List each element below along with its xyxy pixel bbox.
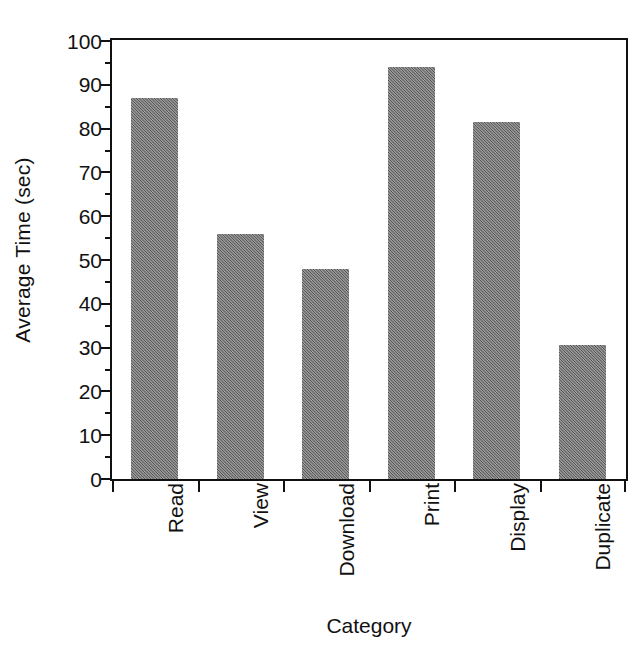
y-axis-major-tick: [101, 303, 112, 305]
y-axis-major-tick: [101, 84, 112, 86]
y-axis-tick-label: 20: [48, 380, 102, 401]
y-axis-major-tick: [101, 347, 112, 349]
x-axis-category-label: Print: [420, 483, 444, 613]
y-axis-tick-label: 40: [48, 293, 102, 314]
bar: [131, 98, 178, 479]
y-axis-minor-tick: [105, 281, 112, 283]
y-axis-minor-tick: [105, 456, 112, 458]
y-axis-tick-label: 80: [48, 118, 102, 139]
x-axis-category-label: Download: [335, 483, 359, 613]
x-axis-category-label: View: [249, 483, 273, 613]
y-axis-tick-label: 90: [48, 74, 102, 95]
y-axis-major-tick: [101, 434, 112, 436]
x-axis-category-label: Display: [506, 483, 530, 613]
y-axis-tick-label: 0: [48, 468, 102, 489]
y-axis-minor-tick: [105, 193, 112, 195]
y-axis-minor-tick: [105, 150, 112, 152]
y-axis-minor-tick: [105, 369, 112, 371]
x-axis-title: Category: [110, 614, 628, 638]
y-axis-tick-label: 60: [48, 205, 102, 226]
bar: [559, 345, 606, 479]
y-axis-major-tick: [101, 40, 112, 42]
x-axis-category-label: Duplicate: [591, 483, 615, 613]
bar: [473, 122, 520, 479]
y-axis-minor-tick: [105, 412, 112, 414]
y-axis-minor-tick: [105, 106, 112, 108]
bar-chart-figure: Average Time (sec) 010203040506070809010…: [0, 0, 643, 664]
y-axis-major-tick: [101, 390, 112, 392]
y-axis-minor-tick: [105, 325, 112, 327]
y-axis-tick-label: 100: [48, 30, 102, 51]
bar: [217, 234, 264, 479]
y-axis-minor-tick: [105, 237, 112, 239]
y-axis-major-tick: [101, 259, 112, 261]
y-axis-tick-label: 50: [48, 249, 102, 270]
bar: [388, 67, 435, 479]
y-axis-tick-label-group: 0102030405060708090100: [44, 0, 102, 664]
y-axis-major-tick: [101, 478, 112, 480]
y-axis-tick-label: 70: [48, 161, 102, 182]
x-axis-category-label: Read: [164, 483, 188, 613]
bar: [302, 269, 349, 479]
plot-area: [110, 38, 628, 481]
y-axis-minor-tick: [105, 62, 112, 64]
y-axis-major-tick: [101, 215, 112, 217]
y-axis-major-tick: [101, 171, 112, 173]
y-axis-tick-label: 30: [48, 337, 102, 358]
y-axis-title: Average Time (sec): [0, 0, 46, 500]
y-axis-tick-label: 10: [48, 424, 102, 445]
x-axis-category-label-group: ReadViewDownloadPrintDisplayDuplicate: [110, 483, 628, 613]
y-axis-major-tick: [101, 128, 112, 130]
y-axis-title-label: Average Time (sec): [11, 157, 35, 342]
